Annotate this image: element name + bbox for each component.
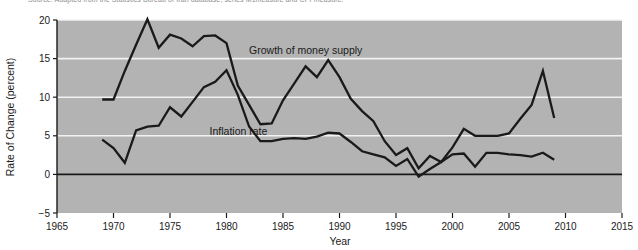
svg-text:2000: 2000: [441, 221, 464, 232]
svg-text:20: 20: [39, 15, 51, 26]
svg-text:2005: 2005: [498, 221, 521, 232]
annotation-1: Growth of money supply: [249, 44, 363, 56]
figure-container: Source: Adapted from the Statistics Bure…: [0, 0, 638, 250]
svg-text:1970: 1970: [102, 221, 125, 232]
x-axis-ticks: 1965197019751980198519901995200020052010…: [46, 213, 634, 232]
svg-text:1995: 1995: [385, 221, 408, 232]
svg-text:1980: 1980: [215, 221, 238, 232]
svg-text:2010: 2010: [554, 221, 577, 232]
svg-text:−5: −5: [39, 208, 51, 219]
y-axis-title: Rate of Change (percent): [4, 58, 16, 176]
svg-text:2015: 2015: [611, 221, 634, 232]
x-axis-title: Year: [329, 235, 351, 247]
line-chart: 1965197019751980198519901995200020052010…: [0, 0, 638, 250]
svg-text:0: 0: [44, 169, 50, 180]
source-note: Source: Adapted from the Statistics Bure…: [28, 0, 344, 4]
svg-text:1990: 1990: [328, 221, 351, 232]
svg-text:5: 5: [44, 130, 50, 141]
svg-text:1985: 1985: [272, 221, 295, 232]
annotation-2: Inflation rate: [210, 125, 268, 137]
svg-text:15: 15: [39, 53, 51, 64]
svg-text:1965: 1965: [46, 221, 69, 232]
svg-text:1975: 1975: [159, 221, 182, 232]
y-axis-ticks: −505101520: [39, 15, 57, 219]
svg-text:10: 10: [39, 92, 51, 103]
